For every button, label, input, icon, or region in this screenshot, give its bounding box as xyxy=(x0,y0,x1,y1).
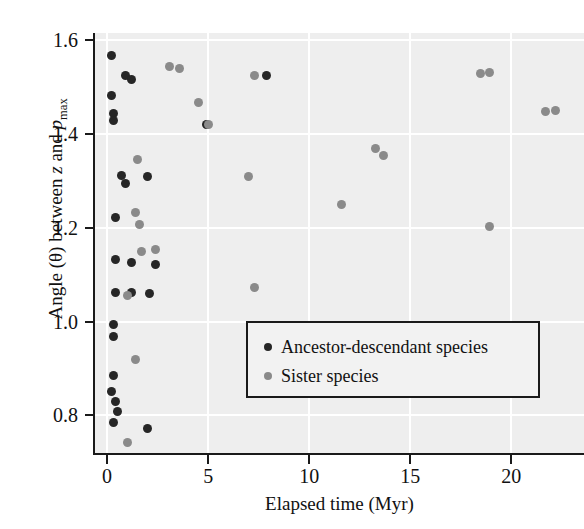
y-axis-title-pmax-subscript: max xyxy=(56,98,70,120)
gridline-horizontal xyxy=(95,414,584,416)
y-axis-title-text: Angle (θ) between xyxy=(45,174,66,320)
data-point xyxy=(541,107,550,116)
data-point xyxy=(127,75,136,84)
data-point xyxy=(123,291,132,300)
data-point xyxy=(165,62,174,71)
y-axis-title-p: p xyxy=(45,120,66,130)
x-axis-tick xyxy=(409,455,411,464)
y-axis-title-z: z xyxy=(45,166,66,173)
data-point xyxy=(121,179,130,188)
data-point xyxy=(379,151,388,160)
data-point xyxy=(107,91,116,100)
data-point xyxy=(551,106,560,115)
data-point xyxy=(123,438,132,447)
data-point xyxy=(111,255,120,264)
data-point xyxy=(137,247,146,256)
data-point xyxy=(337,200,346,209)
data-point xyxy=(127,258,136,267)
data-point xyxy=(131,355,140,364)
data-point xyxy=(143,172,152,181)
gridline-horizontal xyxy=(95,39,584,41)
data-point xyxy=(113,407,122,416)
data-point xyxy=(485,68,494,77)
legend-marker-icon-ancestor-descendant xyxy=(264,343,272,351)
data-point xyxy=(107,387,116,396)
data-point xyxy=(109,371,118,380)
scatter-plot-figure: 051015200.81.01.21.41.6 Angle (θ) betwee… xyxy=(0,0,584,529)
data-point xyxy=(175,64,184,73)
data-point xyxy=(107,51,116,60)
data-point xyxy=(109,418,118,427)
x-axis-tick xyxy=(510,455,512,464)
data-point xyxy=(131,208,140,217)
data-point xyxy=(204,120,213,129)
gridline-vertical xyxy=(207,33,209,453)
y-axis-tick xyxy=(85,321,94,323)
data-point xyxy=(151,245,160,254)
x-axis-tick-label: 0 xyxy=(77,466,137,486)
legend-item-ancestor-descendant: Ancestor-descendant species xyxy=(264,336,488,358)
data-point xyxy=(109,320,118,329)
data-point xyxy=(151,260,160,269)
y-axis-line xyxy=(93,33,95,453)
y-axis-title-and: and xyxy=(45,129,66,166)
data-point xyxy=(194,98,203,107)
legend-item-sister-species: Sister species xyxy=(264,365,378,387)
x-axis-tick xyxy=(207,455,209,464)
data-point xyxy=(262,71,271,80)
x-axis-tick xyxy=(308,455,310,464)
y-axis-title: Angle (θ) between z and pmax xyxy=(45,0,71,419)
data-point xyxy=(109,116,118,125)
gridline-horizontal xyxy=(95,227,584,229)
y-axis-tick xyxy=(85,39,94,41)
data-point xyxy=(111,288,120,297)
data-point xyxy=(111,213,120,222)
x-axis-title: Elapsed time (Myr) xyxy=(95,493,584,515)
data-point xyxy=(485,222,494,231)
data-point xyxy=(476,69,485,78)
data-point xyxy=(133,155,142,164)
x-axis-tick-label: 10 xyxy=(279,466,339,486)
data-point xyxy=(143,424,152,433)
data-point xyxy=(244,172,253,181)
x-axis-tick-label: 5 xyxy=(178,466,238,486)
y-axis-tick xyxy=(85,414,94,416)
data-point xyxy=(145,289,154,298)
legend-box: Ancestor-descendant species Sister speci… xyxy=(246,321,540,398)
legend-label-ancestor-descendant: Ancestor-descendant species xyxy=(281,338,488,356)
y-axis-tick xyxy=(85,133,94,135)
x-axis-tick xyxy=(106,455,108,464)
data-point xyxy=(111,397,120,406)
gridline-horizontal xyxy=(95,133,584,135)
legend-marker-icon-sister-species xyxy=(264,372,272,380)
x-axis-tick-label: 20 xyxy=(481,466,541,486)
data-point xyxy=(250,71,259,80)
x-axis-tick-label: 15 xyxy=(380,466,440,486)
data-point xyxy=(109,332,118,341)
y-axis-tick xyxy=(85,227,94,229)
data-point xyxy=(250,283,259,292)
legend-label-sister-species: Sister species xyxy=(281,367,378,385)
